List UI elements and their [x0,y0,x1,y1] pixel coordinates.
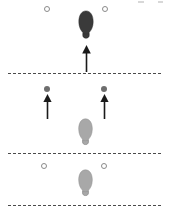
faint-mark-top-right-b [158,1,163,3]
dashed-boundary-line-middle [8,153,161,154]
open-circle-marker-bottom-right [101,163,107,169]
arrow-center-up-icon [81,45,92,72]
faint-mark-top-right-a [138,1,144,3]
arrow-right-up-icon [99,94,110,119]
footprint-diagram [0,0,169,214]
footprint-light-bottom-icon [77,168,94,204]
arrow-left-up-icon [42,94,53,119]
filled-dot-marker-left [44,86,50,92]
dashed-boundary-line-top [8,73,161,74]
footprint-light-middle-icon [77,117,94,153]
filled-dot-marker-right [101,86,107,92]
dashed-boundary-line-bottom [8,205,161,206]
footprint-dark-top-icon [77,10,95,46]
open-circle-marker-bottom-left [41,163,47,169]
open-circle-marker-top-left [44,6,50,12]
open-circle-marker-top-right [102,6,108,12]
